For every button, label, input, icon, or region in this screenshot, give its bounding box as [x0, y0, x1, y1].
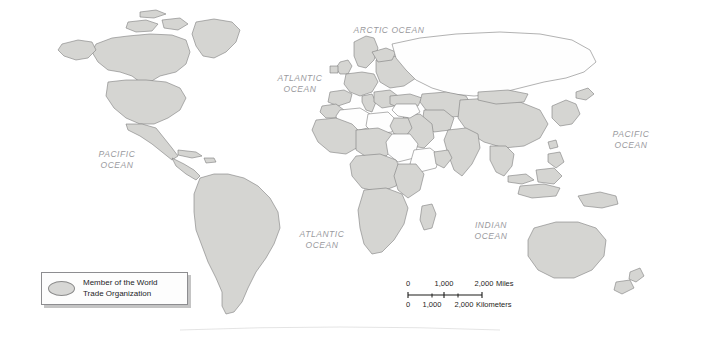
region-indonesia-1 — [518, 184, 560, 198]
island-new-zealand-south — [614, 280, 634, 294]
region-iberia — [328, 90, 352, 106]
country-mexico — [126, 124, 178, 160]
region-central-america — [172, 158, 200, 180]
country-australia — [528, 222, 606, 278]
country-united-states — [106, 80, 186, 124]
island-japan-north — [576, 88, 594, 100]
region-alaska — [58, 40, 96, 60]
scale-row-kilometers: 0 1,000 2,000 Kilometers — [406, 300, 528, 310]
country-canada — [92, 34, 190, 82]
world-map-page: ARCTIC OCEAN ATLANTIC OCEAN ATLANTIC OCE… — [0, 0, 714, 338]
map-legend: Member of the World Trade Organization — [41, 272, 188, 305]
region-central-africa — [350, 154, 402, 192]
country-mongolia — [478, 90, 528, 104]
arctic-islands-3 — [140, 10, 166, 18]
island-hispaniola — [204, 158, 216, 163]
island-cuba — [178, 150, 202, 158]
scale-bar-graphic — [406, 291, 528, 299]
scale-km-tick-2: 2,000 — [455, 300, 474, 309]
island-new-guinea — [578, 192, 618, 208]
region-southeast-asia — [490, 146, 514, 176]
region-southern-africa — [358, 188, 408, 254]
country-uk — [336, 60, 352, 74]
legend-label: Member of the World Trade Organization — [83, 278, 158, 299]
scale-miles-tick-0: 0 — [406, 279, 410, 288]
scale-km-tick-1: 1,000 — [423, 300, 442, 309]
continent-south-america — [194, 174, 280, 314]
country-india — [444, 128, 480, 176]
scale-miles-tick-1: 1,000 — [435, 279, 454, 288]
island-new-zealand-north — [629, 268, 644, 282]
scale-km-tick-0: 0 — [406, 300, 410, 309]
island-philippines — [548, 152, 564, 168]
scale-miles-unit: Miles — [496, 279, 514, 288]
region-korea-japan — [552, 100, 580, 126]
arctic-islands-2 — [162, 18, 188, 30]
country-russia — [392, 32, 596, 96]
island-borneo — [536, 168, 562, 184]
map-scale-bar: 0 1,000 2,000 Miles 0 1,000 2,000 Kilome… — [406, 279, 528, 311]
country-greenland — [192, 19, 240, 58]
scale-miles-tick-2: 2,000 — [475, 279, 494, 288]
arctic-islands-1 — [126, 20, 158, 32]
region-antarctic-fringe — [180, 327, 500, 330]
scale-km-unit: Kilometers — [476, 300, 511, 309]
island-taiwan — [548, 140, 558, 149]
region-indonesia-2 — [508, 174, 534, 184]
country-ireland — [330, 66, 338, 73]
legend-swatch-member — [48, 281, 75, 296]
island-madagascar — [420, 204, 436, 230]
scale-row-miles: 0 1,000 2,000 Miles — [406, 279, 528, 289]
